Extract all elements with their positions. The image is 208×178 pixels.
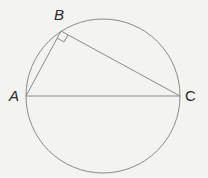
label-c: C (185, 87, 196, 104)
geometry-diagram: A B C (0, 0, 208, 178)
segment-bc (61, 31, 180, 96)
label-b: B (54, 6, 64, 23)
segment-ab (26, 31, 61, 96)
label-a: A (8, 87, 19, 104)
